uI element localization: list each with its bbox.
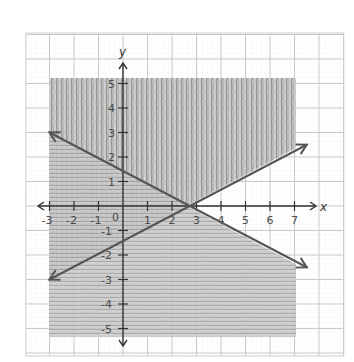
y-tick-label: -3 [101,274,112,287]
y-tick-label: 3 [108,127,115,140]
x-axis-label: x [319,200,328,214]
y-tick-label: 2 [108,151,115,164]
x-tick-label: 6 [267,214,274,227]
y-tick-label: -4 [101,298,112,311]
inequality-graph: -3-2-101234567 -5-4-3-2-112345 x y [0,0,354,362]
y-tick-label: 1 [108,176,115,189]
x-tick-label: 3 [193,214,200,227]
y-tick-label: 5 [108,78,115,91]
x-tick-label: 1 [144,214,151,227]
x-tick-label: -1 [91,214,102,227]
y-tick-label: -1 [101,225,112,238]
x-tick-label: 5 [242,214,249,227]
x-tick-label: -3 [42,214,53,227]
y-tick-label: -5 [101,323,112,336]
y-axis-label: y [118,45,127,59]
x-tick-label: 7 [291,214,298,227]
x-tick-label: -2 [66,214,77,227]
x-tick-label: 0 [112,211,119,224]
y-tick-label: 4 [108,102,115,115]
